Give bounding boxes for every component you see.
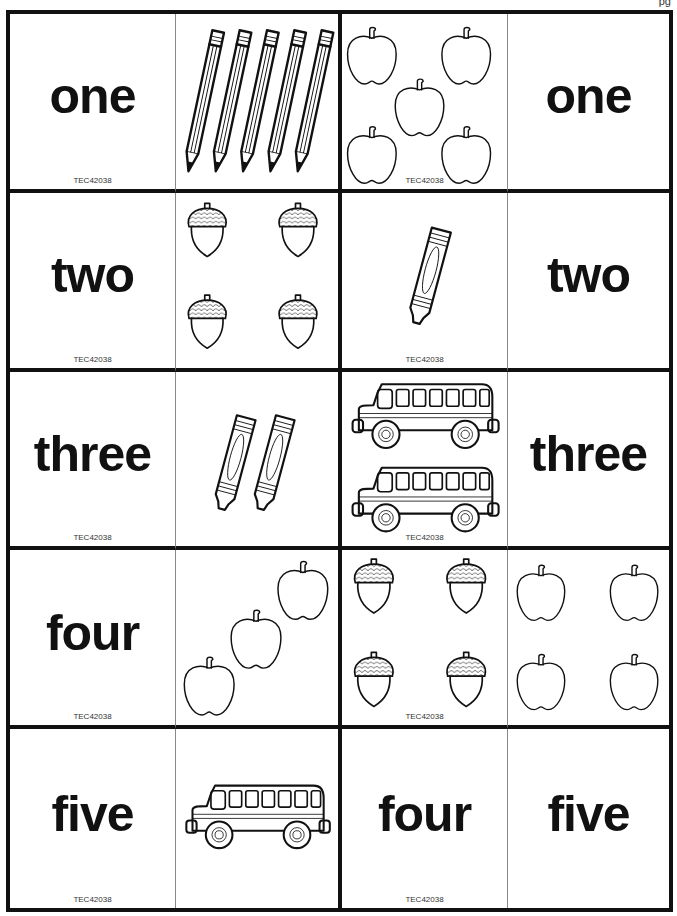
card-code: TEC42038 — [342, 533, 507, 542]
number-word-cards-sheet: one TEC42038 TEC42038 one — [6, 10, 673, 912]
word-card-one: one TEC42038 — [10, 14, 176, 193]
number-word: three — [10, 425, 175, 483]
apple-icon — [342, 14, 507, 189]
number-word: two — [10, 247, 175, 305]
picture-card-five-pencils — [176, 14, 342, 193]
picture-card-three-apples — [176, 550, 342, 729]
crayon-icon — [176, 372, 338, 547]
picture-card-four-acorns — [176, 193, 342, 372]
number-word: one — [508, 68, 669, 126]
number-word: one — [10, 68, 175, 126]
card-code: TEC42038 — [10, 176, 175, 185]
word-card-one: one — [508, 14, 669, 193]
word-card-two: two — [508, 193, 669, 372]
word-card-four: four TEC42038 — [10, 550, 176, 729]
card-code: TEC42038 — [342, 895, 507, 904]
school-bus-icon — [342, 372, 507, 547]
card-code: TEC42038 — [10, 895, 175, 904]
picture-card-one-crayon: TEC42038 — [342, 193, 508, 372]
picture-card-one-bus — [176, 729, 342, 908]
number-word: three — [508, 425, 669, 483]
picture-card-two-buses: TEC42038 — [342, 372, 508, 551]
card-code: TEC42038 — [342, 176, 507, 185]
picture-card-two-crayons — [176, 372, 342, 551]
card-code: TEC42038 — [10, 533, 175, 542]
number-word: five — [10, 785, 175, 843]
acorn-icon — [176, 193, 338, 368]
word-card-two: two TEC42038 — [10, 193, 176, 372]
card-code: TEC42038 — [10, 712, 175, 721]
card-code: TEC42038 — [10, 355, 175, 364]
apple-icon — [176, 550, 338, 725]
number-word: two — [508, 247, 669, 305]
number-word: five — [508, 785, 669, 843]
picture-card-five-apples: TEC42038 — [342, 14, 508, 193]
page-corner-label: pg — [659, 0, 671, 7]
picture-card-four-apples — [508, 550, 669, 729]
word-card-three: three TEC42038 — [10, 372, 176, 551]
number-word: four — [10, 604, 175, 662]
word-card-three: three — [508, 372, 669, 551]
pencil-icon — [176, 14, 338, 189]
number-word: four — [342, 785, 507, 843]
crayon-icon — [342, 193, 507, 368]
word-card-five: five — [508, 729, 669, 908]
picture-card-four-acorns: TEC42038 — [342, 550, 508, 729]
acorn-icon — [342, 550, 507, 725]
school-bus-icon — [176, 729, 338, 908]
word-card-four: four TEC42038 — [342, 729, 508, 908]
card-code: TEC42038 — [342, 712, 507, 721]
word-card-five: five TEC42038 — [10, 729, 176, 908]
apple-icon — [508, 550, 669, 725]
card-code: TEC42038 — [342, 355, 507, 364]
